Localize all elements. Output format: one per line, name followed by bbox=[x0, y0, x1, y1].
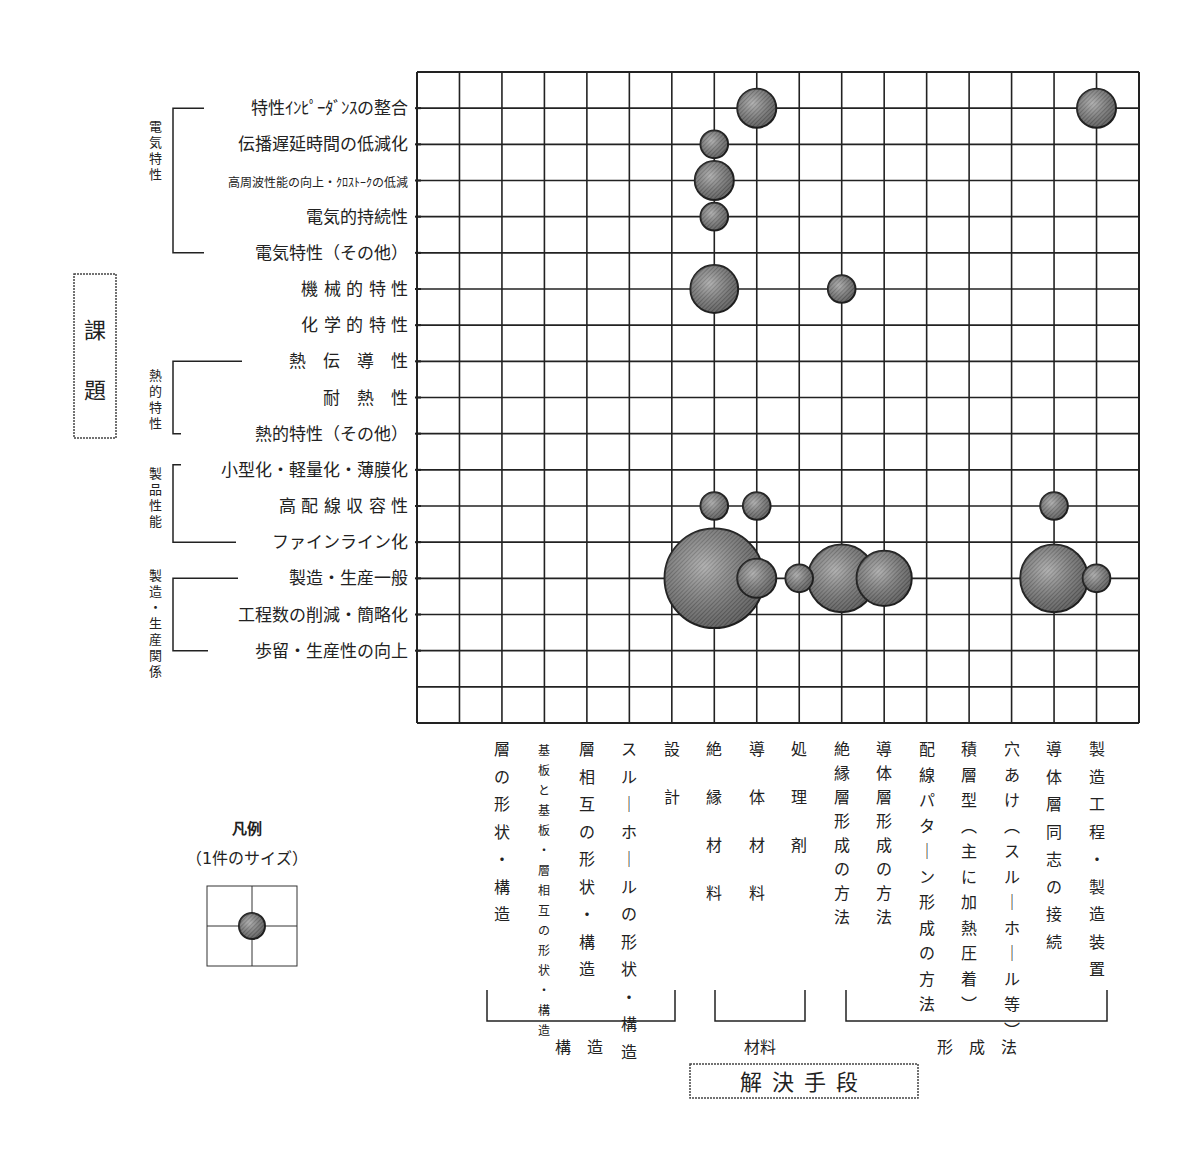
y-group-label-char: 産 bbox=[149, 632, 162, 647]
column-label-char: け bbox=[1004, 791, 1020, 810]
column-label-char: 程 bbox=[1089, 823, 1105, 842]
column-label-char: 造 bbox=[538, 1024, 550, 1038]
column-label-char: 構 bbox=[538, 1004, 550, 1018]
row-label: 熱 伝 導 性 bbox=[289, 351, 408, 371]
column-label-char: 同 bbox=[1046, 823, 1062, 842]
y-group-label-char: 熱 bbox=[149, 368, 162, 383]
column-label-char: の bbox=[538, 924, 550, 938]
column-label-char: 型 bbox=[961, 791, 977, 810]
column-label-char: 法 bbox=[876, 908, 892, 927]
row-label: 電気特性（その他） bbox=[255, 243, 408, 263]
column-label-char: 相 bbox=[579, 768, 595, 787]
column-label-char: 等 bbox=[1004, 995, 1020, 1014]
column-label-char: 剤 bbox=[791, 836, 807, 855]
column-label-char: 絶 bbox=[834, 740, 850, 759]
column-label-char: 状 bbox=[579, 878, 595, 897]
column-label-char: 形 bbox=[494, 795, 510, 814]
bubble-matrix-chart: 特性ｲﾝﾋﾟｰﾀﾞﾝｽの整合伝播遅延時間の低減化高周波性能の向上・ｸﾛｽﾄｰｸの… bbox=[0, 0, 1203, 1174]
row-label: 化 学 的 特 性 bbox=[301, 315, 408, 335]
column-label-char: 方 bbox=[876, 884, 892, 903]
x-group-bracket bbox=[715, 990, 805, 1021]
y-group-label-char: ・ bbox=[149, 600, 162, 615]
column-label-char: 配 bbox=[919, 740, 935, 759]
y-group-label-char: 造 bbox=[149, 584, 162, 599]
y-group-label-char: 特 bbox=[149, 151, 162, 166]
column-label-char: 方 bbox=[919, 970, 935, 989]
legend: 凡例 （1件のサイズ） bbox=[186, 820, 308, 966]
column-label-char: 構 bbox=[579, 933, 595, 952]
column-label-char: 計 bbox=[664, 788, 680, 807]
bubble bbox=[785, 565, 813, 593]
column-label-char: 状 bbox=[621, 960, 637, 979]
column-label-char: 製 bbox=[1089, 878, 1105, 897]
column-label-char: タ bbox=[919, 817, 935, 836]
y-group-label-char: 係 bbox=[149, 664, 162, 679]
column-label-char: ・ bbox=[579, 905, 595, 924]
row-labels: 特性ｲﾝﾋﾟｰﾀﾞﾝｽの整合伝播遅延時間の低減化高周波性能の向上・ｸﾛｽﾄｰｸの… bbox=[221, 98, 408, 661]
column-label-char: パ bbox=[919, 791, 935, 810]
column-label-char: 成 bbox=[876, 836, 892, 855]
y-group-bracket bbox=[173, 578, 238, 650]
row-label: ファインライン化 bbox=[272, 532, 408, 552]
column-label-char: ｜ bbox=[919, 842, 935, 861]
legend-subtitle: （1件のサイズ） bbox=[186, 849, 308, 868]
bubble bbox=[690, 265, 738, 313]
column-label-char: 層 bbox=[876, 788, 892, 807]
column-label-char: 工 bbox=[1089, 795, 1105, 814]
column-label-char: 続 bbox=[1046, 933, 1062, 952]
column-label-char: 法 bbox=[834, 908, 850, 927]
column-label-char: 法 bbox=[919, 995, 935, 1014]
bubble bbox=[1040, 492, 1068, 520]
column-label-char: 層 bbox=[579, 740, 595, 759]
column-label-char: 層 bbox=[494, 740, 510, 759]
grid bbox=[415, 72, 1139, 723]
column-label-char: 導 bbox=[876, 740, 892, 759]
row-label: 電気的持続性 bbox=[306, 207, 408, 227]
bubble bbox=[695, 161, 734, 200]
column-label-char: ・ bbox=[538, 984, 550, 998]
column-label-char: の bbox=[494, 768, 510, 787]
column-label-char: 圧 bbox=[961, 944, 977, 963]
y-group-label-char: 生 bbox=[149, 616, 162, 631]
row-label: 小型化・軽量化・薄膜化 bbox=[221, 460, 408, 480]
x-group-label: 材料 bbox=[744, 1038, 776, 1057]
row-label: 高 配 線 収 容 性 bbox=[279, 496, 408, 516]
x-axis-title: 解決手段 bbox=[740, 1070, 868, 1095]
column-label-char: の bbox=[579, 823, 595, 842]
y-group-label-char: 性 bbox=[149, 498, 162, 513]
column-label-char: 層 bbox=[961, 766, 977, 785]
x-axis-title-box: 解決手段 bbox=[690, 1064, 918, 1098]
row-label: 製造・生産一般 bbox=[289, 568, 408, 588]
column-label-char: ・ bbox=[494, 850, 510, 869]
column-label-char: 製 bbox=[1089, 740, 1105, 759]
y-group-label-char: 気 bbox=[149, 135, 162, 150]
bubble bbox=[700, 492, 728, 520]
column-label-char: ス bbox=[1004, 842, 1020, 861]
bubble bbox=[743, 492, 771, 520]
y-axis-title-box: 課 題 bbox=[74, 274, 116, 438]
y-group-label-char: 的 bbox=[149, 384, 162, 399]
column-label-char: ン bbox=[919, 868, 935, 887]
column-label-char: 板 bbox=[538, 824, 550, 838]
column-label-char: 体 bbox=[1046, 768, 1062, 787]
column-label-char: 装 bbox=[1089, 933, 1105, 952]
column-label-char: ｜ bbox=[621, 795, 637, 814]
x-group-label: 形 成 法 bbox=[937, 1038, 1017, 1057]
column-label-char: 構 bbox=[621, 1015, 637, 1034]
column-label-char: ル bbox=[1004, 970, 1020, 989]
column-label-char: の bbox=[1046, 878, 1062, 897]
column-label-char: ︶ bbox=[1004, 1021, 1020, 1040]
column-label-char: 処 bbox=[791, 740, 807, 759]
column-label-char: 体 bbox=[749, 788, 765, 807]
y-group-label-char: 製 bbox=[149, 466, 162, 481]
column-label-char: 置 bbox=[1089, 960, 1105, 979]
column-label-char: 積 bbox=[961, 740, 977, 759]
column-label-char: ｜ bbox=[621, 850, 637, 869]
row-label: 歩留・生産性の向上 bbox=[255, 641, 408, 661]
column-label-char: 層 bbox=[1046, 795, 1062, 814]
column-label-char: ︶ bbox=[961, 995, 977, 1014]
column-label-char: ル bbox=[621, 878, 637, 897]
column-label-char: ・ bbox=[538, 844, 550, 858]
y-group-bracket bbox=[173, 108, 204, 253]
column-label-char: の bbox=[834, 860, 850, 879]
